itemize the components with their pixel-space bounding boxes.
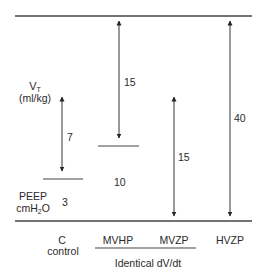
peep-value-c: 3 [62, 196, 68, 208]
vt-units: (ml/kg) [19, 92, 51, 104]
vt-value-hvzp: 40 [234, 112, 246, 124]
vt-value-mvhp: 15 [124, 76, 136, 88]
peep-value-mvhp: 10 [114, 176, 126, 188]
group-label-mvzp: MVZP [159, 234, 188, 246]
group-label-mvhp: MVHP [103, 234, 133, 246]
vt-value-mvzp: 15 [178, 151, 190, 163]
vt-value-c: 7 [67, 131, 73, 143]
group-sublabel-c: control [47, 245, 79, 257]
bracket-label: Identical dV/dt [115, 257, 182, 269]
group-label-hvzp: HVZP [216, 234, 244, 246]
peep-units: cmH2O [16, 202, 50, 214]
vt-label: VT [29, 80, 41, 92]
peep-label: PEEP [19, 190, 47, 202]
